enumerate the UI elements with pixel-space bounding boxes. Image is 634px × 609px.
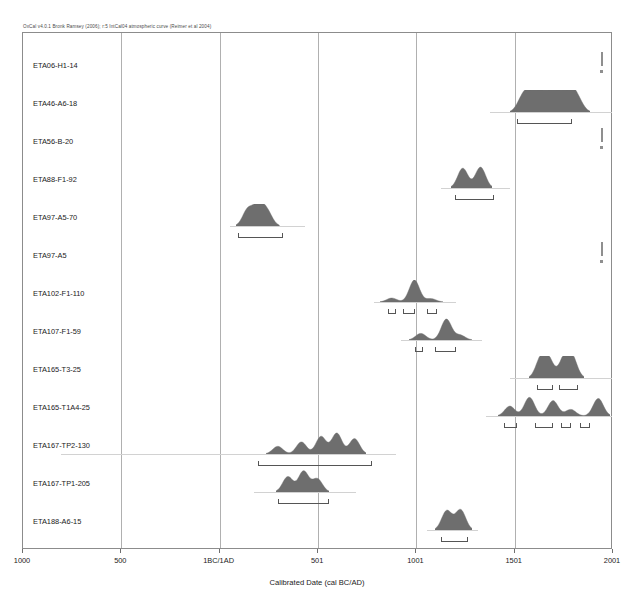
- probability-distribution: [236, 204, 279, 226]
- distribution-baseline: [510, 378, 612, 379]
- calibrated-range-bar: [0, 423, 634, 428]
- probability-distribution: [409, 318, 472, 340]
- distribution-baseline: [441, 188, 510, 189]
- calibrated-range-bar: [0, 385, 634, 390]
- calibrated-range-bar: [0, 461, 634, 466]
- axis-tick: [612, 549, 613, 553]
- sample-label: ETA56-B-20: [33, 137, 73, 146]
- distribution-baseline: [61, 454, 395, 455]
- distribution-baseline: [230, 226, 305, 227]
- range-segment: [278, 499, 329, 504]
- calibrated-range-bar: [0, 195, 634, 200]
- probability-distribution: [435, 508, 472, 530]
- calibrated-range-bar: [0, 309, 634, 314]
- distribution-baseline: [427, 530, 478, 531]
- gridline: [121, 33, 122, 548]
- distribution-baseline: [490, 112, 612, 113]
- axis-tick-label: 501: [311, 556, 323, 565]
- calibrated-range-bar: [0, 233, 634, 238]
- axis-tick: [415, 549, 416, 553]
- range-segment: [435, 347, 457, 352]
- axis-tick-label: 2001: [604, 556, 620, 565]
- modern-date-spike: [600, 128, 604, 150]
- sample-label: ETA06-H1-14: [33, 61, 78, 70]
- sample-label: ETA102-F1-110: [33, 289, 84, 298]
- probability-distribution: [529, 356, 584, 378]
- range-segment: [441, 537, 469, 542]
- range-segment: [504, 423, 518, 428]
- sample-label: ETA165-T1A4-25: [33, 403, 90, 412]
- range-segment: [559, 385, 579, 390]
- probability-distribution: [380, 280, 443, 302]
- probability-distribution: [266, 432, 366, 454]
- axis-tick: [514, 549, 515, 553]
- calibrated-range-bar: [0, 347, 634, 352]
- range-segment: [258, 461, 372, 466]
- x-axis-title: Calibrated Date (cal BC/AD): [0, 578, 634, 587]
- axis-tick-label: 1BC/1AD: [203, 556, 234, 565]
- distribution-baseline: [374, 302, 457, 303]
- probability-distribution: [498, 394, 610, 416]
- axis-tick: [219, 549, 220, 553]
- probability-distribution: [276, 470, 329, 492]
- distribution-baseline: [486, 416, 612, 417]
- axis-tick: [120, 549, 121, 553]
- probability-distribution: [510, 90, 591, 112]
- range-segment: [388, 309, 396, 314]
- calibrated-range-bar: [0, 119, 634, 124]
- sample-label: ETA88-F1-92: [33, 175, 77, 184]
- range-segment: [580, 423, 590, 428]
- distribution-baseline: [254, 492, 356, 493]
- sample-label: ETA188-A6-15: [33, 517, 81, 526]
- probability-distribution: [451, 166, 492, 188]
- range-segment: [535, 423, 553, 428]
- range-segment: [561, 423, 571, 428]
- range-segment: [427, 309, 437, 314]
- calibrated-range-bar: [0, 499, 634, 504]
- axis-tick-label: 1501: [505, 556, 521, 565]
- axis-tick: [22, 549, 23, 553]
- axis-tick: [317, 549, 318, 553]
- oxcal-multiplot: OxCal v4.0.1 Bronk Ramsey (2006); r:5 In…: [0, 0, 634, 609]
- range-segment: [455, 195, 494, 200]
- range-segment: [403, 309, 415, 314]
- calibrated-range-bar: [0, 537, 634, 542]
- sample-label: ETA97-A5-70: [33, 213, 77, 222]
- range-segment: [517, 119, 572, 124]
- oxcal-header-note: OxCal v4.0.1 Bronk Ramsey (2006); r:5 In…: [23, 24, 211, 29]
- sample-label: ETA167-TP1-205: [33, 479, 90, 488]
- sample-label: ETA46-A6-18: [33, 99, 77, 108]
- modern-date-spike: [600, 242, 604, 264]
- range-segment: [537, 385, 553, 390]
- gridline: [220, 33, 221, 548]
- range-segment: [415, 347, 423, 352]
- axis-tick-label: 500: [114, 556, 126, 565]
- sample-label: ETA107-F1-59: [33, 327, 81, 336]
- range-segment: [238, 233, 283, 238]
- distribution-baseline: [401, 340, 482, 341]
- modern-date-spike: [600, 52, 604, 74]
- sample-label: ETA97-A5: [33, 251, 67, 260]
- axis-tick-label: 1000: [14, 556, 30, 565]
- sample-label: ETA167-TP2-130: [33, 441, 90, 450]
- sample-label: ETA165-T3-25: [33, 365, 81, 374]
- axis-tick-label: 1001: [407, 556, 423, 565]
